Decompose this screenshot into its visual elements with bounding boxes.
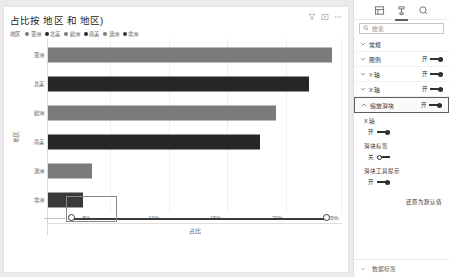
y-axis-tick-label: 北美 xyxy=(34,80,44,88)
pane-tab-bar xyxy=(354,0,449,20)
legend-item-africa[interactable]: 非洲 xyxy=(123,30,139,38)
toggle-switch[interactable] xyxy=(430,87,443,92)
chevron-down-icon xyxy=(360,266,366,272)
filter-icon[interactable] xyxy=(308,13,316,21)
app-root: 占比按 地区 和 地区) 地区 亚洲 北美 欧洲 xyxy=(0,0,449,277)
section-legend[interactable]: 图例 开 xyxy=(354,52,449,67)
fields-tab-icon[interactable] xyxy=(374,5,385,16)
analytics-tab-icon[interactable] xyxy=(418,5,429,16)
toggle-state-label: 开 xyxy=(422,70,428,78)
gridline xyxy=(169,39,170,213)
legend-item-asia[interactable]: 亚洲 xyxy=(25,30,41,38)
y-axis-tick-label: 非洲 xyxy=(34,196,44,204)
legend-label: 非洲 xyxy=(128,30,138,38)
bar-chart-visual[interactable]: 占比按 地区 和 地区) 地区 亚洲 北美 欧洲 xyxy=(3,6,349,273)
zoom-slider-toggle[interactable]: 开 xyxy=(421,101,442,109)
legend-title: 地区 xyxy=(10,30,20,38)
x-axis-toggle[interactable]: 开 xyxy=(422,85,443,93)
bar-south-america[interactable] xyxy=(48,135,260,150)
pane-sections: 常规 图例 开 Y 轴 开 xyxy=(354,37,449,259)
bar-europe[interactable] xyxy=(48,106,276,121)
legend-swatch xyxy=(45,32,49,36)
section-label: 常规 xyxy=(369,40,443,49)
toggle-switch[interactable] xyxy=(429,103,442,108)
bar-asia[interactable] xyxy=(48,48,332,63)
setting-toggle-slider-tooltip[interactable]: 开 xyxy=(364,178,443,186)
chevron-down-icon xyxy=(360,56,366,62)
legend-swatch xyxy=(123,32,127,36)
legend-item-oceania[interactable]: 澳洲 xyxy=(103,30,119,38)
legend-swatch xyxy=(64,32,68,36)
y-axis-tick-label: 澳洲 xyxy=(34,167,44,175)
legend-label: 亚洲 xyxy=(31,30,41,38)
legend-item-europe[interactable]: 欧洲 xyxy=(64,30,80,38)
chevron-down-icon xyxy=(360,71,366,77)
legend-item-north-america[interactable]: 北美 xyxy=(45,30,61,38)
zoom-slider-settings: X 轴 开 滑块标签 关 滑块工具提示 开 xyxy=(354,113,449,194)
chart-legend: 地区 亚洲 北美 欧洲 南美 xyxy=(10,30,342,38)
legend-label: 南美 xyxy=(89,30,99,38)
toggle-switch[interactable] xyxy=(377,155,390,160)
plot-area: 地区 亚洲 北美 欧洲 南美 澳洲 非洲 xyxy=(10,39,342,235)
legend-item-south-america[interactable]: 南美 xyxy=(84,30,100,38)
bar-oceania[interactable] xyxy=(48,164,92,179)
reset-to-default-button[interactable]: 还原为默认值 xyxy=(354,194,449,209)
toggle-state-label: 开 xyxy=(422,85,428,93)
section-label: X 轴 xyxy=(369,85,422,94)
pane-search-row: 搜索 xyxy=(354,20,449,37)
legend-label: 澳洲 xyxy=(109,30,119,38)
chevron-down-icon xyxy=(360,41,366,47)
visual-header: 占比按 地区 和 地区) 地区 亚洲 北美 欧洲 xyxy=(10,13,342,39)
toggle-switch[interactable] xyxy=(430,72,443,77)
search-input[interactable]: 搜索 xyxy=(359,23,444,34)
section-label: 图例 xyxy=(369,55,422,64)
plot-canvas: 5% 10% 15% 20% 25% 占比 xyxy=(47,39,342,235)
section-data-labels[interactable]: 数据标签 xyxy=(354,259,449,277)
y-axis-tick-label: 欧洲 xyxy=(34,109,44,117)
toggle-state-label: 开 xyxy=(422,55,428,63)
search-icon xyxy=(363,25,369,32)
y-axis-toggle[interactable]: 开 xyxy=(422,70,443,78)
section-label: 缩放滑块 xyxy=(370,101,421,110)
toggle-switch[interactable] xyxy=(430,57,443,62)
legend-swatch xyxy=(84,32,88,36)
y-axis-title: 地区 xyxy=(10,39,21,235)
legend-label: 欧洲 xyxy=(70,30,80,38)
toggle-state-label: 开 xyxy=(368,178,374,186)
bar-north-america[interactable] xyxy=(48,77,309,92)
chevron-up-icon xyxy=(361,102,367,108)
toggle-switch[interactable] xyxy=(377,130,390,135)
slider-selection-box xyxy=(66,196,117,222)
section-label: 数据标签 xyxy=(372,264,443,273)
section-x-axis[interactable]: X 轴 开 xyxy=(354,82,449,97)
section-general[interactable]: 常规 xyxy=(354,37,449,52)
setting-label-x-axis: X 轴 xyxy=(364,117,443,125)
more-options-icon[interactable] xyxy=(334,13,342,21)
y-axis-category-labels: 亚洲 北美 欧洲 南美 澳洲 非洲 xyxy=(21,39,47,235)
report-canvas: 占比按 地区 和 地区) 地区 亚洲 北美 欧洲 xyxy=(0,0,353,277)
search-placeholder: 搜索 xyxy=(372,24,384,33)
section-y-axis[interactable]: Y 轴 开 xyxy=(354,67,449,82)
legend-swatch xyxy=(25,32,29,36)
format-pane: 搜索 常规 图例 开 xyxy=(353,0,449,277)
gridline xyxy=(227,39,228,213)
chevron-down-icon xyxy=(360,86,366,92)
section-zoom-slider[interactable]: 缩放滑块 开 xyxy=(354,97,449,113)
slider-handle-right[interactable] xyxy=(323,214,330,221)
toggle-state-label: 关 xyxy=(368,153,374,161)
visual-toolbar xyxy=(308,13,342,21)
focus-mode-icon[interactable] xyxy=(321,13,329,21)
zoom-slider[interactable] xyxy=(44,212,340,224)
setting-toggle-x-axis[interactable]: 开 xyxy=(364,128,443,136)
y-axis-tick-label: 亚洲 xyxy=(34,51,44,59)
legend-label: 北美 xyxy=(50,30,60,38)
format-tab-icon[interactable] xyxy=(396,5,407,16)
toggle-switch[interactable] xyxy=(377,180,390,185)
legend-swatch xyxy=(103,32,107,36)
legend-toggle[interactable]: 开 xyxy=(422,55,443,63)
setting-label-slider-labels: 滑块标签 xyxy=(364,142,443,150)
setting-toggle-slider-labels[interactable]: 关 xyxy=(364,153,443,161)
gridline xyxy=(110,39,111,213)
gridline xyxy=(286,39,287,213)
toggle-state-label: 开 xyxy=(421,101,427,109)
